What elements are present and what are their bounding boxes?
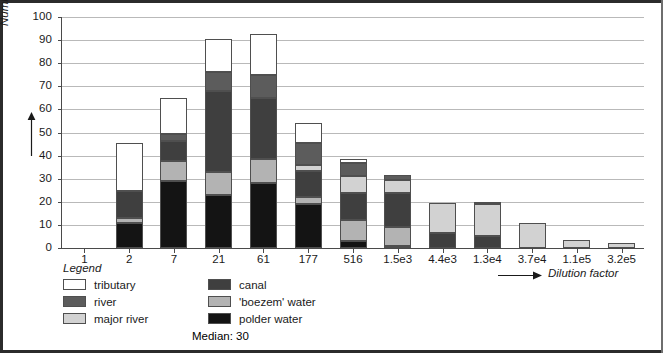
bar-segment--boezem--water: [116, 218, 143, 223]
bar-3.7e4: [519, 223, 546, 248]
bar-segment-polder-water: [340, 241, 367, 248]
y-tick-label: 50: [14, 126, 52, 138]
x-tick-label: 1.5e3: [375, 253, 420, 265]
bar-segment-major-river: [340, 176, 367, 192]
bar-21: [205, 39, 232, 248]
x-axis-title: Dilution factor: [548, 267, 618, 279]
bar-segment-major-river: [608, 243, 635, 248]
chart-figure: Number of cases 010203040506070809010012…: [0, 0, 663, 353]
y-tick-label: 20: [14, 195, 52, 207]
legend-column-left: tributary river major river: [63, 278, 208, 325]
legend-item-major-river: major river: [63, 312, 208, 325]
bar-segment-polder-water: [160, 181, 187, 248]
x-tick-label: 3.7e4: [510, 253, 555, 265]
gridline: [62, 63, 644, 64]
bar-segment-canal: [429, 233, 456, 248]
y-tick-mark: [58, 109, 62, 110]
plot-area: 010203040506070809010012721611775161.5e3…: [61, 17, 644, 249]
bar-segment-polder-water: [295, 204, 322, 248]
bar-segment-river: [474, 202, 501, 204]
legend-swatch-river: [63, 296, 86, 307]
bar-61: [250, 34, 277, 248]
y-tick-label: 90: [14, 33, 52, 45]
bar-segment--boezem--water: [384, 227, 411, 245]
bar-segment-canal: [116, 191, 143, 218]
y-tick-label: 80: [14, 56, 52, 68]
x-axis-arrow-icon: [498, 270, 542, 281]
bar-segment-canal: [295, 171, 322, 198]
gridline: [62, 133, 644, 134]
x-tick-label: 516: [331, 253, 376, 265]
bar-segment-polder-water: [250, 183, 277, 248]
gridline: [62, 109, 644, 110]
bar-segment-polder-water: [205, 195, 232, 248]
bar-segment-major-river: [474, 204, 501, 236]
bar-segment-major-river: [429, 203, 456, 233]
bar-segment-river: [295, 143, 322, 165]
bar-segment-major-river: [519, 223, 546, 248]
gridline: [62, 86, 644, 87]
bar-segment-canal: [340, 193, 367, 221]
bar-1.1e5: [563, 240, 590, 248]
legend-item-river: river: [63, 295, 208, 308]
bar-segment-polder-water: [384, 246, 411, 248]
y-tick-mark: [58, 179, 62, 180]
bar-segment--boezem--water: [340, 220, 367, 241]
legend-item-boezem-water: 'boezem' water: [208, 295, 316, 308]
y-axis-title: Number of cases: [0, 0, 10, 26]
bar-segment-tributary: [205, 39, 232, 72]
y-tick-mark: [58, 156, 62, 157]
y-tick-mark: [58, 133, 62, 134]
y-tick-label: 10: [14, 218, 52, 230]
x-tick-label: 1.3e4: [465, 253, 510, 265]
bar-segment--boezem--water: [160, 161, 187, 181]
y-tick-label: 0: [14, 241, 52, 253]
x-tick-label: 3.2e5: [599, 253, 644, 265]
bar-segment--boezem--water: [205, 172, 232, 195]
bar-4.4e3: [429, 203, 456, 248]
y-tick-label: 60: [14, 102, 52, 114]
y-tick-mark: [58, 86, 62, 87]
legend-label-polder-water: polder water: [239, 313, 302, 325]
x-tick-label: 1.1e5: [554, 253, 599, 265]
bar-segment-major-river: [563, 240, 590, 248]
bar-2: [116, 143, 143, 248]
y-tick-label: 40: [14, 149, 52, 161]
y-tick-mark: [58, 17, 62, 18]
legend-title: Legend: [63, 262, 316, 274]
y-tick-label: 30: [14, 172, 52, 184]
legend-label-major-river: major river: [94, 313, 148, 325]
legend-swatch-polder-water: [208, 313, 231, 324]
gridline: [62, 40, 644, 41]
frame-edge-top: [0, 0, 663, 3]
legend-item-polder-water: polder water: [208, 312, 316, 325]
legend-swatch-boezem-water: [208, 296, 231, 307]
bar-segment-canal: [250, 98, 277, 159]
legend: Legend tributary river major river: [63, 262, 316, 325]
legend-swatch-major-river: [63, 313, 86, 324]
bar-segment-tributary: [340, 159, 367, 162]
legend-item-tributary: tributary: [63, 278, 208, 291]
y-tick-label: 100: [14, 10, 52, 22]
bar-segment-canal: [474, 236, 501, 248]
legend-swatch-canal: [208, 279, 231, 290]
bar-segment-river: [160, 134, 187, 141]
legend-label-tributary: tributary: [94, 279, 136, 291]
bar-516: [340, 159, 367, 248]
legend-swatch-tributary: [63, 279, 86, 290]
y-tick-mark: [58, 202, 62, 203]
bar-segment-canal: [160, 141, 187, 162]
x-tick-label: 4.4e3: [420, 253, 465, 265]
bar-segment-major-river: [384, 180, 411, 193]
legend-label-boezem-water: 'boezem' water: [239, 296, 316, 308]
bar-segment-river: [205, 72, 232, 90]
y-tick-mark: [58, 63, 62, 64]
y-tick-mark: [58, 225, 62, 226]
legend-column-right: canal 'boezem' water polder water: [208, 278, 316, 325]
legend-label-river: river: [94, 296, 116, 308]
bar-segment-polder-water: [116, 223, 143, 248]
y-tick-label: 70: [14, 79, 52, 91]
gridline: [62, 17, 644, 18]
bar-segment-river: [250, 75, 277, 98]
frame-edge-left: [0, 0, 3, 353]
